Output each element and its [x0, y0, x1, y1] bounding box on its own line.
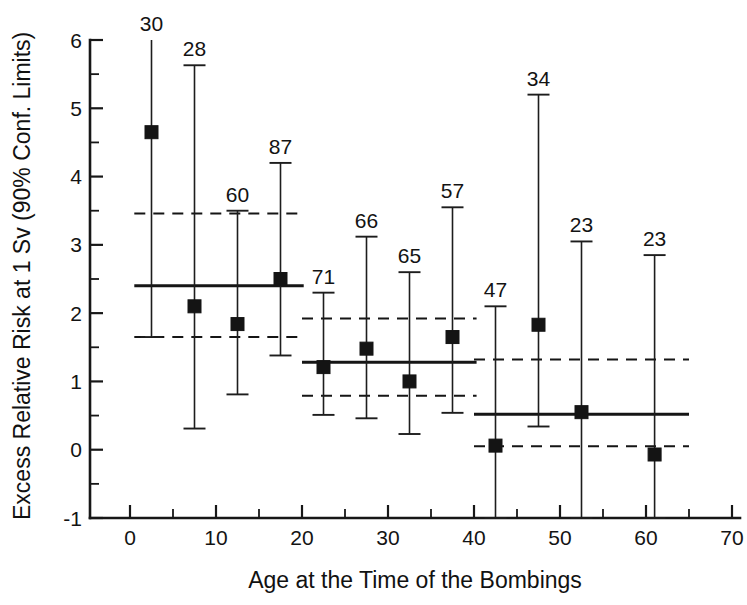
- case-count-label: 66: [355, 209, 378, 232]
- x-tick-label: 30: [376, 526, 399, 549]
- case-count-label: 47: [484, 278, 507, 301]
- x-axis-title: Age at the Time of the Bombings: [248, 567, 582, 593]
- data-point-marker: [231, 318, 244, 331]
- y-axis-title: Excess Relative Risk at 1 Sv (90% Conf. …: [9, 32, 35, 520]
- data-point-marker: [403, 375, 416, 388]
- case-count-label: 57: [441, 179, 464, 202]
- case-count-label: 23: [643, 227, 666, 250]
- data-point-marker: [274, 273, 287, 286]
- case-count-label: 23: [570, 213, 593, 236]
- x-tick-label: 50: [548, 526, 571, 549]
- y-tick-label: 6: [70, 29, 82, 52]
- y-tick-label: 2: [70, 302, 82, 325]
- data-point-marker: [532, 318, 545, 331]
- data-point-marker: [317, 361, 330, 374]
- y-axis-title-text: Excess Relative Risk at 1 Sv (90% Conf. …: [9, 32, 35, 520]
- data-point-marker: [575, 406, 588, 419]
- chart-background: [0, 0, 747, 605]
- data-point-marker: [648, 448, 661, 461]
- x-tick-label: 40: [462, 526, 485, 549]
- x-tick-label: 0: [124, 526, 136, 549]
- y-tick-label: 1: [70, 370, 82, 393]
- y-tick-label: 0: [70, 438, 82, 461]
- x-axis-title-text: Age at the Time of the Bombings: [248, 567, 582, 593]
- x-tick-label: 60: [634, 526, 657, 549]
- y-tick-label: 4: [70, 165, 82, 188]
- y-tick-label: 3: [70, 233, 82, 256]
- case-count-label: 87: [269, 135, 292, 158]
- x-tick-label: 20: [290, 526, 313, 549]
- case-count-label: 71: [312, 265, 335, 288]
- data-point-marker: [489, 439, 502, 452]
- data-point-marker: [188, 300, 201, 313]
- x-tick-label: 70: [720, 526, 743, 549]
- data-point-marker: [446, 331, 459, 344]
- excess-relative-risk-scatter-chart: Excess Relative Risk at 1 Sv (90% Conf. …: [0, 0, 747, 605]
- case-count-label: 60: [226, 183, 249, 206]
- case-count-label: 28: [183, 37, 206, 60]
- data-point-marker: [145, 126, 158, 139]
- case-count-label: 65: [398, 244, 421, 267]
- data-point-marker: [360, 342, 373, 355]
- case-count-label: 34: [527, 67, 551, 90]
- y-tick-label: 5: [70, 97, 82, 120]
- y-tick-label: -1: [63, 507, 82, 530]
- case-count-label: 30: [140, 12, 163, 35]
- chart-figure: Excess Relative Risk at 1 Sv (90% Conf. …: [0, 0, 747, 605]
- x-tick-label: 10: [204, 526, 227, 549]
